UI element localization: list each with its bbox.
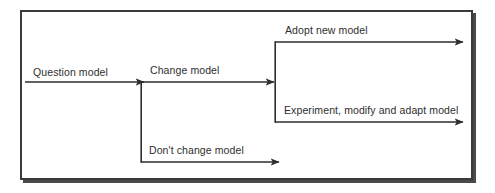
flow-arrows-canvas xyxy=(0,0,495,193)
label-dont-change-model: Don't change model xyxy=(149,144,244,157)
diagram-root: Question model Change model Adopt new mo… xyxy=(0,0,495,193)
label-adopt-new-model: Adopt new model xyxy=(285,24,368,37)
label-experiment-modify-adapt-model: Experiment, modify and adapt model xyxy=(284,104,458,117)
label-change-model: Change model xyxy=(150,64,220,77)
label-question-model: Question model xyxy=(33,66,108,79)
